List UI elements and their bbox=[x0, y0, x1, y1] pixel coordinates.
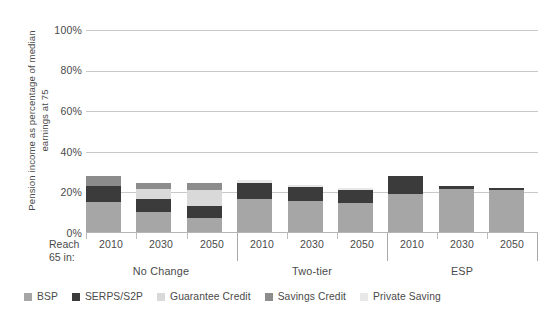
gridline-60 bbox=[86, 111, 538, 112]
bar-column[interactable] bbox=[288, 185, 323, 232]
legend-item-private-saving: Private Saving bbox=[360, 291, 441, 302]
x-tick-label-nochange-2050: 2050 bbox=[187, 238, 237, 250]
reach-65-in-label: Reach 65 in: bbox=[49, 238, 89, 263]
bar-column[interactable] bbox=[187, 183, 222, 232]
reach-label-line1: Reach bbox=[49, 238, 79, 250]
group-label-esp: ESP bbox=[387, 265, 537, 277]
bar-segment-bsp[interactable] bbox=[338, 203, 373, 232]
bar-segment-serps-s2p[interactable] bbox=[136, 199, 171, 212]
gridline-40 bbox=[86, 152, 538, 153]
x-tick-label-twotier-2050: 2050 bbox=[337, 238, 387, 250]
reach-label-line2: 65 in: bbox=[49, 251, 75, 263]
legend-item-savings-credit: Savings Credit bbox=[265, 291, 346, 302]
bar-segment-serps-s2p[interactable] bbox=[388, 176, 423, 193]
y-tick-label-20: 20% bbox=[40, 186, 82, 198]
plot-area bbox=[86, 30, 538, 233]
x-tick-label-twotier-2010: 2010 bbox=[237, 238, 287, 250]
bar-column[interactable] bbox=[86, 176, 121, 232]
bar-segment-serps-s2p[interactable] bbox=[288, 187, 323, 201]
y-tick-label-60: 60% bbox=[40, 105, 82, 117]
legend-item-bsp: BSP bbox=[24, 291, 58, 302]
x-tick-label-esp-2030: 2030 bbox=[437, 238, 487, 250]
bar-segment-serps-s2p[interactable] bbox=[187, 206, 222, 218]
legend-swatch-private-saving bbox=[360, 293, 368, 301]
x-axis-right-end bbox=[537, 233, 538, 261]
gridline-80 bbox=[86, 71, 538, 72]
legend-item-serps-s2p: SERPS/S2P bbox=[72, 291, 143, 302]
bar-segment-serps-s2p[interactable] bbox=[86, 186, 121, 202]
legend-label-private-saving: Private Saving bbox=[373, 291, 441, 302]
legend-label-savings-credit: Savings Credit bbox=[278, 291, 346, 302]
legend-label-serps-s2p: SERPS/S2P bbox=[85, 291, 143, 302]
legend-swatch-savings-credit bbox=[265, 293, 273, 301]
y-tick-label-100: 100% bbox=[40, 24, 82, 36]
group-label-two-tier: Two-tier bbox=[237, 265, 387, 277]
x-tick-label-esp-2050: 2050 bbox=[487, 238, 537, 250]
bar-segment-bsp[interactable] bbox=[489, 190, 524, 232]
x-tick-label-twotier-2030: 2030 bbox=[287, 238, 337, 250]
legend-swatch-guarantee-credit bbox=[157, 293, 165, 301]
bar-column[interactable] bbox=[338, 188, 373, 232]
bar-column[interactable] bbox=[439, 186, 474, 232]
x-axis-baseline bbox=[86, 232, 538, 233]
x-tick-label-esp-2010: 2010 bbox=[387, 238, 437, 250]
bar-segment-guarantee-credit[interactable] bbox=[136, 189, 171, 199]
bar-segment-bsp[interactable] bbox=[237, 199, 272, 232]
y-tick-label-80: 80% bbox=[40, 64, 82, 76]
bar-segment-savings-credit[interactable] bbox=[187, 183, 222, 190]
bar-column[interactable] bbox=[136, 183, 171, 232]
bar-segment-bsp[interactable] bbox=[288, 201, 323, 232]
bar-segment-bsp[interactable] bbox=[136, 212, 171, 232]
chart-legend: BSP SERPS/S2P Guarantee Credit Savings C… bbox=[24, 291, 441, 302]
legend-swatch-bsp bbox=[24, 293, 32, 301]
bar-segment-bsp[interactable] bbox=[439, 189, 474, 232]
bar-segment-guarantee-credit[interactable] bbox=[187, 190, 222, 206]
bar-column[interactable] bbox=[388, 176, 423, 232]
legend-item-guarantee-credit: Guarantee Credit bbox=[157, 291, 251, 302]
x-tick-label-nochange-2030: 2030 bbox=[136, 238, 186, 250]
group-label-no-change: No Change bbox=[86, 265, 236, 277]
legend-label-bsp: BSP bbox=[37, 291, 58, 302]
legend-swatch-serps-s2p bbox=[72, 293, 80, 301]
bar-segment-bsp[interactable] bbox=[388, 194, 423, 232]
bar-column[interactable] bbox=[237, 180, 272, 233]
bar-segment-bsp[interactable] bbox=[187, 218, 222, 232]
x-tick-label-nochange-2010: 2010 bbox=[86, 238, 136, 250]
bar-segment-serps-s2p[interactable] bbox=[338, 190, 373, 203]
legend-label-guarantee-credit: Guarantee Credit bbox=[170, 291, 251, 302]
bar-column[interactable] bbox=[489, 188, 524, 232]
pension-income-stacked-bar-chart: Pension income as percentage of median e… bbox=[0, 0, 554, 321]
gridline-100 bbox=[86, 30, 538, 31]
bar-segment-serps-s2p[interactable] bbox=[237, 183, 272, 199]
bar-segment-bsp[interactable] bbox=[86, 202, 121, 232]
bar-segment-savings-credit[interactable] bbox=[86, 176, 121, 185]
y-tick-label-40: 40% bbox=[40, 146, 82, 158]
